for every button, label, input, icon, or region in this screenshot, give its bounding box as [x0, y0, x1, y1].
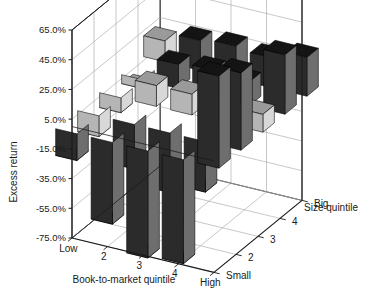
z-category-label: 2 — [248, 252, 254, 263]
bar-3d — [198, 62, 231, 169]
y-tick-label: -35.0% — [36, 173, 67, 184]
bar-3d — [91, 133, 124, 224]
y-tick-label: -15.0% — [36, 143, 67, 154]
x-category-label: Low — [59, 243, 78, 254]
bar-3d — [135, 71, 168, 106]
y-tick-label: 65.0% — [39, 24, 66, 35]
chart-container: 65.0%45.0%25.0%5.0%-15.0%-35.0%-55.0%-75… — [0, 0, 372, 303]
z-category-label: 3 — [270, 234, 276, 245]
y-axis-title: Excess return — [8, 141, 19, 202]
z-axis-title: Size quintile — [304, 202, 358, 213]
x-category-label: 2 — [101, 251, 107, 262]
z-category-label: 4 — [292, 216, 298, 227]
y-tick-label: 25.0% — [39, 84, 66, 95]
z-category-label: Small — [226, 270, 251, 281]
y-tick-label: -55.0% — [36, 203, 67, 214]
x-axis-title: Book-to-market quintile — [73, 274, 176, 285]
x-category-label: High — [200, 277, 221, 288]
y-tick-label: 45.0% — [39, 54, 66, 65]
bar-3d — [264, 40, 297, 114]
excess-return-3d-bar-chart: 65.0%45.0%25.0%5.0%-15.0%-35.0%-55.0%-75… — [0, 0, 372, 303]
bar-3d — [127, 142, 160, 258]
bar-3d — [162, 150, 195, 263]
y-tick-label: 5.0% — [44, 114, 66, 125]
x-category-label: 3 — [137, 260, 143, 271]
